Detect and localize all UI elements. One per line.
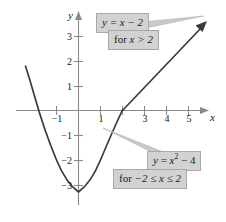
callout-ray-domain: for x > 2 [108, 30, 159, 50]
y-tick-label-1: 1 [60, 81, 72, 92]
y-tick-label--3: −3 [55, 180, 72, 191]
callout-parabola-domain: for −2 ≤ x ≤ 2 [113, 169, 187, 189]
callout-ray-domain-prefix: for [114, 33, 130, 45]
y-tick-label-2: 2 [60, 56, 72, 67]
callout-parabola-equation-tail: − 4 [178, 154, 195, 166]
y-axis [75, 11, 82, 205]
y-axis-arrowhead [75, 11, 82, 20]
callout-parabola-equation: y = x2 − 4 [147, 151, 201, 171]
piecewise-function-figure: −1 1 3 4 5 3 2 1 −1 −2 −3 y x y = x − 2 … [0, 0, 226, 222]
callout-ray-equation-text: y = x − 2 [102, 16, 143, 28]
y-tick-label--1: −1 [55, 130, 72, 141]
x-tick-label--1: −1 [49, 113, 65, 124]
y-tick-label--2: −2 [55, 155, 72, 166]
x-axis-arrowhead [200, 107, 209, 114]
parabola-curve [26, 66, 123, 192]
callout-parabola-domain-condition: −2 ≤ x ≤ 2 [135, 172, 181, 184]
callout-parabola-equation-eq: = [158, 154, 170, 166]
y-tick-label-3: 3 [60, 31, 72, 42]
ray-arrowhead [196, 21, 208, 32]
x-tick-label-1: 1 [94, 113, 108, 124]
x-tick-label-4: 4 [160, 113, 174, 124]
x-axis-label: x [210, 111, 215, 123]
leader-ray-callout [141, 16, 204, 29]
x-tick-label-5: 5 [182, 113, 196, 124]
callout-ray-domain-condition: x > 2 [130, 33, 153, 45]
y-axis-label: y [68, 9, 73, 21]
x-tick-label-3: 3 [138, 113, 152, 124]
callout-parabola-domain-prefix: for [119, 172, 135, 184]
x-axis [16, 107, 209, 114]
